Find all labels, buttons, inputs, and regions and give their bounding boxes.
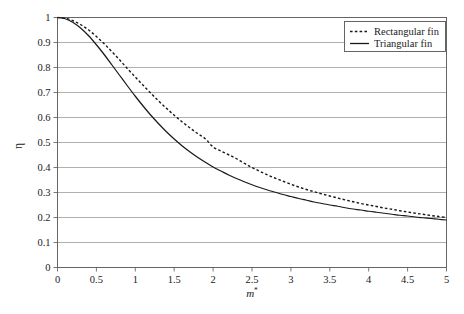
y-tick-label: 0.5	[37, 137, 50, 148]
y-tick-label: 0.8	[37, 62, 50, 73]
y-tick-label: 0.7	[37, 87, 50, 98]
x-tick-label: 3.5	[323, 274, 336, 285]
y-tick-label: 0.4	[37, 162, 51, 173]
x-tick-label: 4.5	[401, 274, 414, 285]
x-tick-label: 1.5	[168, 274, 181, 285]
y-tick-label: 0.9	[37, 37, 50, 48]
y-tick-label: 0.3	[37, 187, 50, 198]
y-tick-label: 0.6	[37, 112, 50, 123]
y-axis-title: η	[12, 143, 25, 149]
fin-efficiency-chart: 00.511.522.533.544.55 00.10.20.30.40.50.…	[0, 0, 464, 314]
x-tick-label: 0	[55, 274, 60, 285]
x-tick-label: 2	[210, 274, 215, 285]
y-tick-label: 0.1	[37, 237, 50, 248]
x-tick-label: 5	[444, 274, 449, 285]
x-tick-label: 1	[133, 274, 138, 285]
legend-label-rectangular-fin: Rectangular fin	[374, 26, 440, 37]
legend: Rectangular fin Triangular fin	[345, 22, 446, 52]
x-tick-label: 2.5	[245, 274, 258, 285]
x-tick-label: 3	[288, 274, 293, 285]
y-tick-label: 1	[45, 12, 50, 23]
x-axis-title-base: m	[246, 287, 254, 299]
y-tick-label: 0.2	[37, 212, 50, 223]
x-tick-label: 0.5	[90, 274, 103, 285]
x-axis-title-superscript: *	[254, 286, 258, 295]
legend-label-triangular-fin: Triangular fin	[374, 38, 433, 49]
y-tick-label: 0	[45, 262, 50, 273]
x-tick-label: 4	[366, 274, 372, 285]
chart-figure: 00.511.522.533.544.55 00.10.20.30.40.50.…	[0, 0, 464, 314]
